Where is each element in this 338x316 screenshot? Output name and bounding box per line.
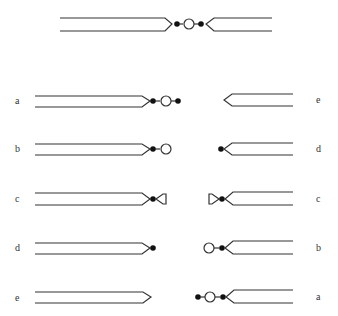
left-arm-c — [35, 193, 166, 205]
label-left-b: b — [15, 144, 20, 154]
right-arm-b — [204, 241, 293, 254]
right-arm-d — [218, 143, 293, 155]
label-right-c: c — [316, 194, 320, 204]
right-arm-c — [209, 192, 293, 205]
left-arm-b — [35, 144, 171, 155]
chromosome-diagram — [0, 0, 338, 316]
label-left-e: e — [15, 293, 19, 303]
left-arm-e — [35, 292, 151, 303]
label-right-a: a — [316, 292, 320, 302]
label-right-b: b — [316, 243, 321, 253]
label-left-a: a — [15, 96, 19, 106]
top-chromosome — [60, 18, 272, 31]
right-arm-e — [224, 94, 293, 106]
label-left-d: d — [15, 243, 20, 253]
label-right-d: d — [316, 144, 321, 154]
left-arm-d — [35, 243, 156, 254]
label-left-c: c — [15, 194, 19, 204]
label-right-e: e — [316, 95, 320, 105]
left-arm-a — [35, 96, 181, 107]
right-arm-a — [195, 290, 293, 303]
